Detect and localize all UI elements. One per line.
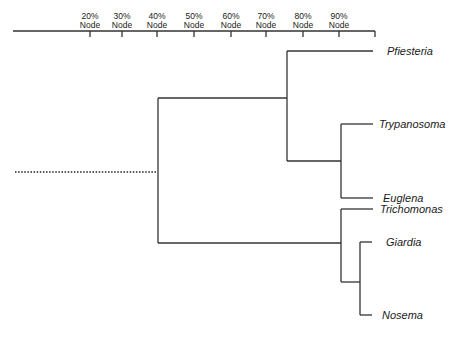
taxon-label: Pfiesteria xyxy=(387,45,433,57)
tick-node-label: Node xyxy=(221,20,242,30)
taxon-label: Trichomonas xyxy=(380,203,443,215)
tick-node-label: Node xyxy=(184,20,205,30)
taxon-label: Nosema xyxy=(382,309,423,321)
tick-node-label: Node xyxy=(293,20,314,30)
tick-node-label: Node xyxy=(329,20,350,30)
taxon-label: Giardia xyxy=(386,236,421,248)
phylogenetic-tree: 20%Node30%Node40%Node50%Node60%Node70%No… xyxy=(0,0,456,339)
tick-node-label: Node xyxy=(256,20,277,30)
node-axis: 20%Node30%Node40%Node50%Node60%Node70%No… xyxy=(13,11,375,37)
tick-node-label: Node xyxy=(80,20,101,30)
taxon-label: Trypanosoma xyxy=(379,118,445,130)
tick-node-label: Node xyxy=(112,20,133,30)
tick-node-label: Node xyxy=(147,20,168,30)
